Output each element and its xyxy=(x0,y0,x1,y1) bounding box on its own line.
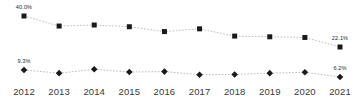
data-point-marker xyxy=(22,14,27,19)
x-axis-tick-2018: 2018 xyxy=(224,86,246,97)
line-chart: 40.0%22.1%9.3%6.2% 201220132014201520162… xyxy=(0,0,361,102)
x-axis-tick-2016: 2016 xyxy=(154,86,176,97)
data-point-marker xyxy=(126,69,133,76)
x-axis-tick-2015: 2015 xyxy=(119,86,141,97)
x-axis-tick-2012: 2012 xyxy=(13,86,35,97)
x-axis-tick-2019: 2019 xyxy=(259,86,281,97)
data-point-marker xyxy=(21,67,28,74)
lower-series-group xyxy=(21,66,344,80)
x-axis-tick-2013: 2013 xyxy=(48,86,70,97)
data-value-label: 40.0% xyxy=(16,4,32,10)
x-axis-tick-2017: 2017 xyxy=(189,86,211,97)
data-value-label: 9.3% xyxy=(17,58,30,64)
x-axis-tick-2021: 2021 xyxy=(329,86,351,97)
upper-series-group xyxy=(22,14,343,50)
data-point-marker xyxy=(127,24,132,29)
data-point-marker xyxy=(267,34,272,39)
data-point-marker xyxy=(91,66,98,73)
x-axis-tick-2014: 2014 xyxy=(83,86,105,97)
data-point-marker xyxy=(231,71,238,78)
upper-series-line xyxy=(24,16,340,47)
data-point-marker xyxy=(302,69,309,76)
lower-series-markers xyxy=(21,66,344,80)
data-point-marker xyxy=(232,34,237,39)
data-value-label: 6.2% xyxy=(333,65,346,71)
data-point-marker xyxy=(161,68,168,75)
lower-series-line xyxy=(24,69,340,77)
data-point-marker xyxy=(197,26,202,31)
x-axis-tick-labels: 2012201320142015201620172018201920202021 xyxy=(0,86,361,100)
data-point-marker xyxy=(338,45,343,50)
data-point-marker xyxy=(196,71,203,78)
data-point-marker xyxy=(57,24,62,29)
data-value-label: 22.1% xyxy=(332,35,348,41)
data-point-marker xyxy=(302,35,307,40)
data-point-marker xyxy=(162,29,167,34)
upper-series-markers xyxy=(22,14,343,50)
data-point-marker xyxy=(92,23,97,28)
data-point-marker xyxy=(266,70,273,77)
data-point-marker xyxy=(337,74,344,81)
data-point-marker xyxy=(56,70,63,77)
x-axis-tick-2020: 2020 xyxy=(294,86,316,97)
